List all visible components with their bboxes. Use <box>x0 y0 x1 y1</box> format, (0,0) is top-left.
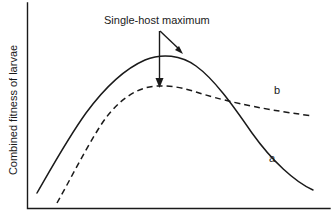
curve-a <box>37 56 313 193</box>
figure-container: Single-host maximum b a Combined fitness… <box>0 0 334 223</box>
curve-b <box>57 86 313 203</box>
annotation-arrow-to-curve-a <box>160 31 180 50</box>
series-label-b: b <box>274 84 280 96</box>
chart-canvas: Single-host maximum b a Combined fitness… <box>0 0 334 223</box>
axis-lines <box>28 3 331 209</box>
annotation-label: Single-host maximum <box>104 14 210 26</box>
series-label-a: a <box>269 152 276 164</box>
y-axis-label: Combined fitness of larvae <box>7 45 19 175</box>
